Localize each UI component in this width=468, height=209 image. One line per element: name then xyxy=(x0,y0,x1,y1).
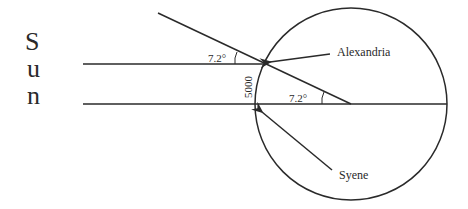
syene-arrow-icon xyxy=(262,112,332,170)
distance-label: 5000 xyxy=(242,76,254,99)
sun-letter-s: S xyxy=(25,27,39,56)
radius-line-alexandria xyxy=(158,13,351,104)
sun-letter-n: n xyxy=(27,81,40,110)
sun-letter-u: u xyxy=(27,54,40,83)
angle-label-center: 7.2° xyxy=(289,92,307,104)
alexandria-label: Alexandria xyxy=(337,45,391,59)
angle-arc-center xyxy=(322,92,324,104)
eratosthenes-diagram: S u n 7.2° 7.2° 5000 Alexandria Syene xyxy=(0,0,468,209)
angle-label-top: 7.2° xyxy=(208,52,226,64)
angle-arc-top xyxy=(235,52,237,64)
syene-label: Syene xyxy=(339,168,368,182)
alexandria-arrow-icon xyxy=(270,54,330,62)
